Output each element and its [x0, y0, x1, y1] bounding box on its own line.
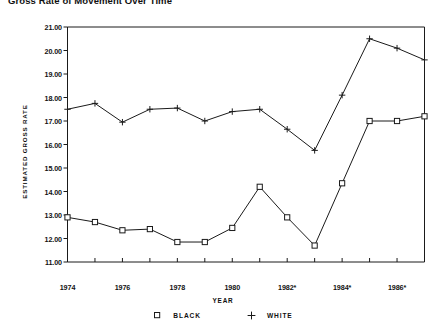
plus-marker [64, 106, 70, 112]
plus-marker [229, 108, 235, 114]
x-axis-tick-labels: 19741976197819801982*1984*1986* [0, 283, 446, 297]
legend-entry-white: WHITE [247, 311, 293, 320]
legend-label: WHITE [267, 312, 293, 319]
x-tick-label: 1984* [312, 283, 372, 292]
square-marker [92, 219, 97, 224]
plus-marker [119, 119, 125, 125]
legend-entry-black: BLACK [153, 311, 201, 320]
square-marker [340, 181, 345, 186]
plus-marker [174, 105, 180, 111]
plus-marker [421, 57, 427, 63]
x-tick-label: 1974 [38, 283, 98, 292]
square-marker [285, 215, 290, 220]
square-marker [147, 227, 152, 232]
plus-marker [366, 36, 372, 42]
x-axis-title: YEAR [0, 297, 446, 304]
square-marker [175, 239, 180, 244]
x-tick-label: 1986* [367, 283, 427, 292]
plus-marker [394, 45, 400, 51]
square-marker [230, 225, 235, 230]
chart-figure: Gross Rate of Movement Over Time ESTIMAT… [0, 0, 446, 331]
x-tick-label: 1978 [147, 283, 207, 292]
square-marker [257, 184, 262, 189]
x-tick-label: 1980 [202, 283, 262, 292]
plus-marker [202, 118, 208, 124]
square-marker [367, 118, 372, 123]
series-black [65, 114, 427, 248]
x-tick-label: 1982* [257, 283, 317, 292]
x-tick-label: 1976 [92, 283, 152, 292]
square-marker [422, 114, 427, 119]
plus-marker [247, 311, 256, 320]
square-marker [312, 243, 317, 248]
plus-marker [92, 100, 98, 106]
plus-marker [339, 92, 345, 98]
plus-marker [147, 106, 153, 112]
square-marker [120, 228, 125, 233]
square-marker [202, 239, 207, 244]
legend-label: BLACK [173, 312, 201, 319]
series-white [64, 36, 427, 154]
chart-legend: BLACKWHITE [0, 311, 446, 320]
square-marker [153, 311, 162, 320]
square-marker [65, 215, 70, 220]
plot-area [0, 0, 446, 331]
square-marker [394, 118, 399, 123]
